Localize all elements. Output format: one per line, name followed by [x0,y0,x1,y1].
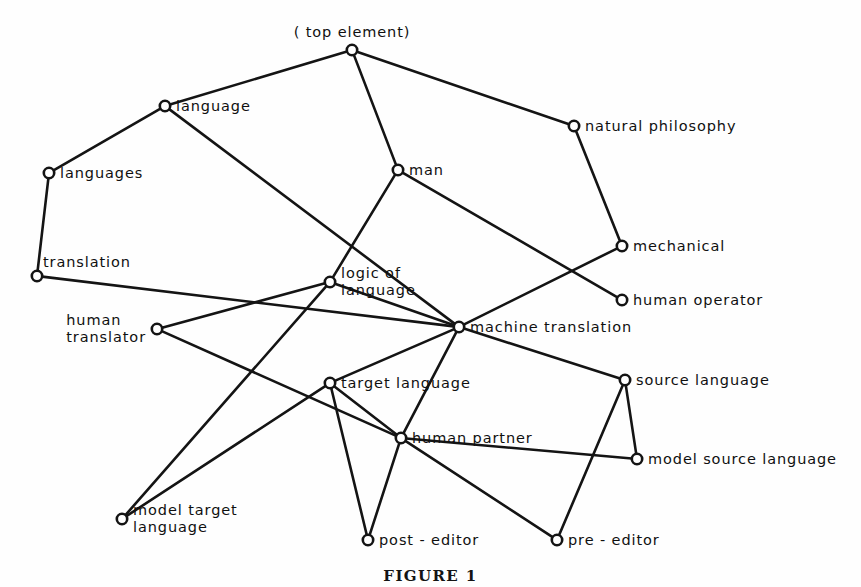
edge-layer [38,51,637,537]
node-sourcelang[interactable] [620,375,630,385]
edge-top-to-man [354,55,396,165]
edge-machtrans-to-sourcelang [464,329,620,379]
node-man[interactable] [393,165,403,175]
edge-targetlang-to-posteditor [331,388,367,535]
node-humantrans[interactable] [152,324,162,334]
edge-targetlang-to-humanpart [334,386,397,435]
edge-languages-to-translation [38,178,49,271]
node-preeditor[interactable] [552,535,562,545]
edge-man-to-logicoflang [333,174,396,277]
edge-targetlang-to-modeltgt [126,386,325,516]
node-machtrans[interactable] [454,322,464,332]
node-humanpart[interactable] [396,433,406,443]
node-layer [32,45,642,545]
edge-logicoflang-to-humantrans [162,283,325,327]
edge-language-to-languages [54,109,161,171]
node-logicoflang[interactable] [325,277,335,287]
node-mechanical[interactable] [617,241,627,251]
edge-man-to-humanop [402,173,617,298]
node-targetlang[interactable] [325,378,335,388]
edge-humantrans-to-humanpart [162,331,397,436]
edge-top-to-language [170,51,347,104]
edge-natphil-to-mechanical [576,131,620,241]
edge-sourcelang-to-preeditor [559,385,623,535]
edge-mechanical-to-machtrans [464,248,618,324]
figure-caption: FIGURE 1 [0,567,861,585]
edge-logicoflang-to-modeltgt [125,286,326,515]
edge-translation-to-machtrans [42,277,454,327]
edge-sourcelang-to-modelsrc [626,385,636,454]
edge-top-to-natphil [357,52,569,125]
node-translation[interactable] [32,271,42,281]
concept-lattice-graph [0,0,861,587]
node-top[interactable] [347,45,357,55]
node-modeltgt[interactable] [117,514,127,524]
node-posteditor[interactable] [363,535,373,545]
node-modelsrc[interactable] [632,454,642,464]
edge-language-to-machtrans [169,109,455,324]
node-humanop[interactable] [617,295,627,305]
node-language[interactable] [160,101,170,111]
edge-humanpart-to-posteditor [370,443,400,535]
figure-canvas: ( top element)languagenatural philosophy… [0,0,861,587]
node-natphil[interactable] [569,121,579,131]
node-languages[interactable] [44,168,54,178]
edge-humanpart-to-preeditor [405,441,552,537]
